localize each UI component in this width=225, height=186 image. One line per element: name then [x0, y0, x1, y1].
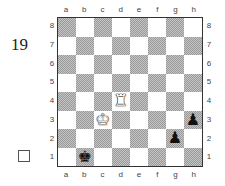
puzzle-number: 19 — [11, 35, 28, 55]
rank-label-7-left: 7 — [48, 36, 56, 54]
rank-label-4-left: 4 — [48, 92, 56, 110]
square-a2[interactable] — [58, 129, 76, 148]
square-h7[interactable] — [184, 37, 202, 56]
square-a8[interactable] — [58, 18, 76, 37]
square-a7[interactable] — [58, 37, 76, 56]
square-f1[interactable] — [148, 148, 166, 167]
square-f8[interactable] — [148, 18, 166, 37]
square-c3[interactable]: ♚ — [94, 111, 112, 130]
square-d4[interactable]: ♜ — [112, 92, 130, 111]
rank-label-4-right: 4 — [205, 92, 213, 110]
square-g1[interactable] — [166, 148, 184, 167]
square-g2[interactable]: ♟ — [166, 129, 184, 148]
solved-checkbox[interactable] — [18, 150, 30, 162]
rank-label-1-left: 1 — [48, 148, 56, 166]
square-h6[interactable] — [184, 55, 202, 74]
square-e8[interactable] — [130, 18, 148, 37]
square-e4[interactable] — [130, 92, 148, 111]
square-d3[interactable] — [112, 111, 130, 130]
white-rook-icon[interactable]: ♜ — [114, 93, 128, 109]
square-b7[interactable] — [76, 37, 94, 56]
square-c8[interactable] — [94, 18, 112, 37]
square-c6[interactable] — [94, 55, 112, 74]
square-g6[interactable] — [166, 55, 184, 74]
square-e7[interactable] — [130, 37, 148, 56]
square-f4[interactable] — [148, 92, 166, 111]
square-h4[interactable] — [184, 92, 202, 111]
square-b2[interactable] — [76, 129, 94, 148]
file-label-h-bottom: h — [185, 170, 203, 179]
square-f3[interactable] — [148, 111, 166, 130]
file-label-e-bottom: e — [130, 170, 148, 179]
square-h1[interactable] — [184, 148, 202, 167]
square-d8[interactable] — [112, 18, 130, 37]
file-label-g-bottom: g — [167, 170, 185, 179]
square-b1[interactable]: ♚ — [76, 148, 94, 167]
rank-label-2-left: 2 — [48, 130, 56, 148]
white-king-icon[interactable]: ♚ — [96, 112, 110, 128]
chess-board: ♜♚♟♟♚ — [57, 17, 203, 167]
rank-label-3-right: 3 — [205, 111, 213, 129]
black-king-icon[interactable]: ♚ — [78, 149, 92, 165]
square-f2[interactable] — [148, 129, 166, 148]
file-label-h-top: h — [185, 5, 203, 14]
square-h2[interactable] — [184, 129, 202, 148]
square-c1[interactable] — [94, 148, 112, 167]
square-a3[interactable] — [58, 111, 76, 130]
rank-label-8-left: 8 — [48, 17, 56, 35]
square-g4[interactable] — [166, 92, 184, 111]
square-g3[interactable] — [166, 111, 184, 130]
square-a5[interactable] — [58, 74, 76, 93]
square-a6[interactable] — [58, 55, 76, 74]
rank-label-7-right: 7 — [205, 36, 213, 54]
square-g8[interactable] — [166, 18, 184, 37]
square-b4[interactable] — [76, 92, 94, 111]
square-f5[interactable] — [148, 74, 166, 93]
square-e1[interactable] — [130, 148, 148, 167]
file-label-g-top: g — [167, 5, 185, 14]
rank-label-5-right: 5 — [205, 73, 213, 91]
square-b6[interactable] — [76, 55, 94, 74]
square-h3[interactable]: ♟ — [184, 111, 202, 130]
file-label-c-top: c — [94, 5, 112, 14]
square-d7[interactable] — [112, 37, 130, 56]
square-b8[interactable] — [76, 18, 94, 37]
square-d2[interactable] — [112, 129, 130, 148]
file-label-f-top: f — [148, 5, 166, 14]
square-d6[interactable] — [112, 55, 130, 74]
square-b5[interactable] — [76, 74, 94, 93]
rank-label-3-left: 3 — [48, 111, 56, 129]
square-e6[interactable] — [130, 55, 148, 74]
file-label-f-bottom: f — [148, 170, 166, 179]
square-d5[interactable] — [112, 74, 130, 93]
rank-label-5-left: 5 — [48, 73, 56, 91]
square-a4[interactable] — [58, 92, 76, 111]
black-pawn-icon[interactable]: ♟ — [168, 130, 182, 146]
square-c7[interactable] — [94, 37, 112, 56]
square-c4[interactable] — [94, 92, 112, 111]
square-f7[interactable] — [148, 37, 166, 56]
square-g7[interactable] — [166, 37, 184, 56]
file-label-b-top: b — [75, 5, 93, 14]
square-c2[interactable] — [94, 129, 112, 148]
square-e3[interactable] — [130, 111, 148, 130]
file-label-b-bottom: b — [75, 170, 93, 179]
square-g5[interactable] — [166, 74, 184, 93]
black-pawn-icon[interactable]: ♟ — [186, 112, 200, 128]
file-label-d-bottom: d — [112, 170, 130, 179]
square-d1[interactable] — [112, 148, 130, 167]
square-h5[interactable] — [184, 74, 202, 93]
rank-label-1-right: 1 — [205, 148, 213, 166]
square-f6[interactable] — [148, 55, 166, 74]
rank-label-6-left: 6 — [48, 55, 56, 73]
rank-label-8-right: 8 — [205, 17, 213, 35]
square-c5[interactable] — [94, 74, 112, 93]
square-a1[interactable] — [58, 148, 76, 167]
square-b3[interactable] — [76, 111, 94, 130]
file-label-a-bottom: a — [57, 170, 75, 179]
square-h8[interactable] — [184, 18, 202, 37]
square-e5[interactable] — [130, 74, 148, 93]
file-label-a-top: a — [57, 5, 75, 14]
file-label-e-top: e — [130, 5, 148, 14]
square-e2[interactable] — [130, 129, 148, 148]
